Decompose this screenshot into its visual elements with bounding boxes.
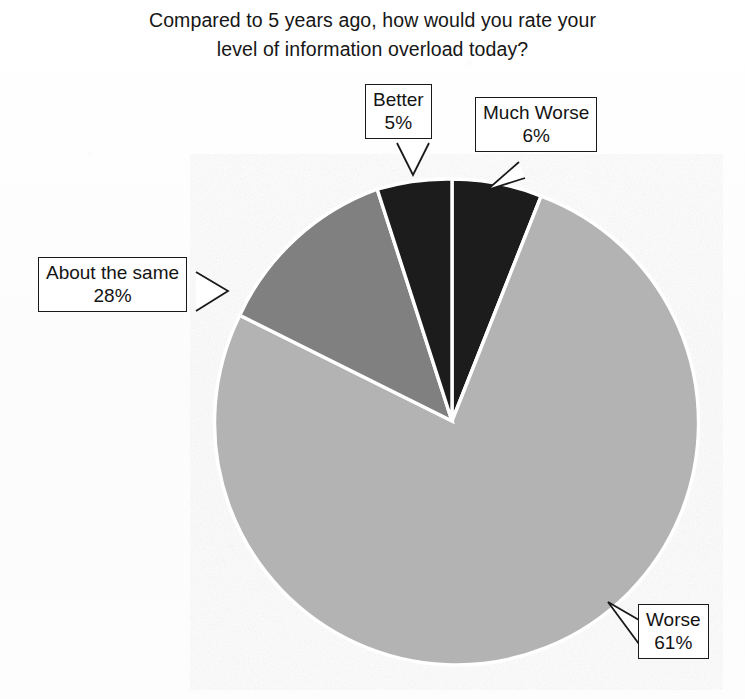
callout-worse-label: Worse — [646, 608, 701, 631]
chart-title-line-1: Compared to 5 years ago, how would you r… — [0, 6, 745, 35]
chart-title: Compared to 5 years ago, how would you r… — [0, 6, 745, 64]
callout-much-worse-value: 6% — [483, 124, 589, 147]
callout-much-worse-label: Much Worse — [483, 101, 589, 124]
callout-worse-value: 61% — [646, 631, 701, 654]
callout-about-the-same-label: About the same — [46, 261, 179, 284]
callout-about-the-same: About the same 28% — [38, 257, 187, 312]
callout-worse: Worse 61% — [638, 604, 709, 659]
leader-about-the-same — [196, 272, 228, 311]
chart-title-line-2: level of information overload today? — [0, 35, 745, 64]
callout-much-worse: Much Worse 6% — [475, 97, 597, 152]
leader-better — [397, 143, 429, 175]
callout-better-label: Better — [373, 88, 424, 111]
leader-worse — [608, 602, 639, 644]
callout-about-the-same-value: 28% — [46, 284, 179, 307]
callout-better: Better 5% — [365, 84, 432, 139]
callout-better-value: 5% — [373, 111, 424, 134]
pie-chart-figure: Compared to 5 years ago, how would you r… — [0, 0, 745, 699]
